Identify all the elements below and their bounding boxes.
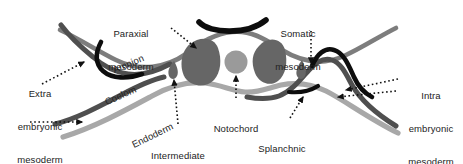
label-extra-embryonic-mesoderm: Extra embryonic mesoderm	[0, 66, 80, 164]
label-extra-embryonic-mesoderm-line1: Extra	[0, 88, 80, 99]
label-intra-embryonic-mesoderm-line1: Intra	[400, 90, 462, 101]
label-extra-embryonic-mesoderm-line3: mesoderm	[0, 154, 80, 164]
label-intra-embryonic-mesoderm: Intra embryonic mesoderm	[400, 68, 462, 164]
label-paraxial-mesoderm: Paraxial mesoderm	[95, 6, 167, 94]
embryo-cross-section-diagram: Paraxial mesoderm Somatic mesoderm Extra…	[0, 0, 463, 164]
label-paraxial-mesoderm-line1: Paraxial	[95, 28, 167, 39]
label-extra-embryonic-mesoderm-line2: embryonic	[0, 121, 80, 132]
label-somatic-mesoderm-line1: Somatic	[262, 28, 334, 39]
label-intra-embryonic-mesoderm-line3: mesoderm	[400, 156, 462, 164]
label-somatic-mesoderm-line2: mesoderm	[262, 61, 334, 72]
paraxial-mesoderm-left	[181, 39, 220, 86]
label-splanchnic-mesoderm-line1: Splanchnic	[244, 143, 320, 154]
label-intra-embryonic-mesoderm-line2: embryonic	[400, 123, 462, 134]
notochord-body	[225, 51, 248, 74]
label-intermediate-mesoderm-line1: Intermediate	[140, 150, 216, 161]
neural-plate	[199, 20, 266, 31]
label-splanchnic-mesoderm: Splanchnic mesoderm	[244, 121, 320, 164]
label-somatic-mesoderm: Somatic mesoderm	[262, 6, 334, 94]
pointer-splanchnic	[290, 97, 303, 118]
